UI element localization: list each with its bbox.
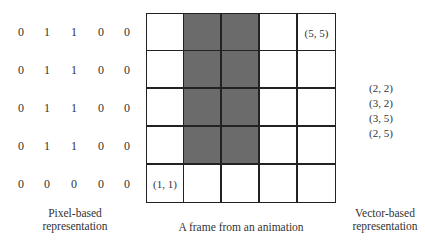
pixel-value: 0	[8, 13, 34, 51]
pixel-value: 0	[8, 165, 34, 203]
vector-point: (2, 5)	[356, 126, 406, 141]
pixel-value: 0	[8, 51, 34, 89]
grid-cell	[183, 164, 221, 203]
grid-cell-corner-top-right: (5, 5)	[297, 13, 336, 51]
grid-cell-filled	[221, 13, 259, 51]
pixel-value: 1	[34, 127, 60, 165]
grid-cell	[259, 126, 297, 164]
grid-cell-filled	[221, 126, 259, 164]
coordinate-label-top-right: (5, 5)	[305, 27, 329, 39]
pixel-row: 0 1 1 0 0	[8, 51, 140, 89]
animation-frame-grid: (5, 5) (1, 1)	[146, 13, 336, 203]
pixel-value: 0	[114, 165, 140, 203]
grid-cell	[146, 50, 184, 88]
pixel-caption: Pixel-based representation	[20, 207, 130, 233]
pixel-value: 1	[61, 51, 87, 89]
grid-cell	[297, 50, 336, 88]
grid-cell	[297, 126, 336, 164]
pixel-value: 0	[88, 51, 114, 89]
pixel-row: 0 1 1 0 0	[8, 127, 140, 165]
pixel-value: 0	[88, 165, 114, 203]
vector-point-list: (2, 2) (3, 2) (3, 5) (2, 5)	[356, 81, 406, 141]
pixel-value: 1	[34, 13, 60, 51]
grid-cell	[259, 13, 297, 51]
pixel-value: 0	[8, 127, 34, 165]
pixel-value: 0	[34, 165, 60, 203]
vector-caption: Vector-based representation	[345, 207, 425, 233]
pixel-row: 0 1 1 0 0	[8, 89, 140, 127]
vector-caption-line1: Vector-based	[345, 207, 425, 220]
pixel-matrix: 0 1 1 0 0 0 1 1 0 0 0 1 1 0 0 0 1 1 0 0 …	[8, 13, 140, 203]
pixel-value: 0	[88, 127, 114, 165]
coordinate-label-bottom-left: (1, 1)	[153, 178, 177, 190]
pixel-value: 1	[61, 89, 87, 127]
pixel-value: 1	[34, 89, 60, 127]
pixel-value: 0	[114, 13, 140, 51]
grid-cell	[259, 164, 297, 203]
grid-cell-filled	[183, 126, 221, 164]
vector-point: (3, 2)	[356, 96, 406, 111]
pixel-row: 0 1 1 0 0	[8, 13, 140, 51]
grid-cell-filled	[183, 88, 221, 126]
pixel-value: 0	[88, 13, 114, 51]
pixel-value: 0	[114, 89, 140, 127]
grid-cell-filled	[183, 13, 221, 51]
grid-cell-filled	[221, 50, 259, 88]
grid-cell	[297, 88, 336, 126]
pixel-row: 0 0 0 0 0	[8, 165, 140, 203]
grid-cell	[146, 88, 184, 126]
vector-point: (3, 5)	[356, 111, 406, 126]
grid-cell	[297, 164, 336, 203]
pixel-value: 1	[61, 127, 87, 165]
pixel-caption-line1: Pixel-based	[20, 207, 130, 220]
pixel-value: 0	[8, 89, 34, 127]
pixel-value: 1	[34, 51, 60, 89]
grid-cell-filled	[221, 88, 259, 126]
pixel-value: 0	[88, 89, 114, 127]
grid-cell	[259, 88, 297, 126]
pixel-value: 1	[61, 13, 87, 51]
pixel-caption-line2: representation	[20, 220, 130, 233]
frame-caption: A frame from an animation	[146, 221, 336, 234]
grid-cell	[221, 164, 259, 203]
grid-cell	[146, 13, 184, 51]
grid-cell	[259, 50, 297, 88]
vector-point: (2, 2)	[356, 81, 406, 96]
grid-cell-filled	[183, 50, 221, 88]
pixel-value: 0	[114, 51, 140, 89]
pixel-value: 0	[114, 127, 140, 165]
pixel-value: 0	[61, 165, 87, 203]
grid-cell	[146, 126, 184, 164]
vector-caption-line2: representation	[345, 220, 425, 233]
grid-cell-corner-bottom-left: (1, 1)	[146, 164, 184, 203]
